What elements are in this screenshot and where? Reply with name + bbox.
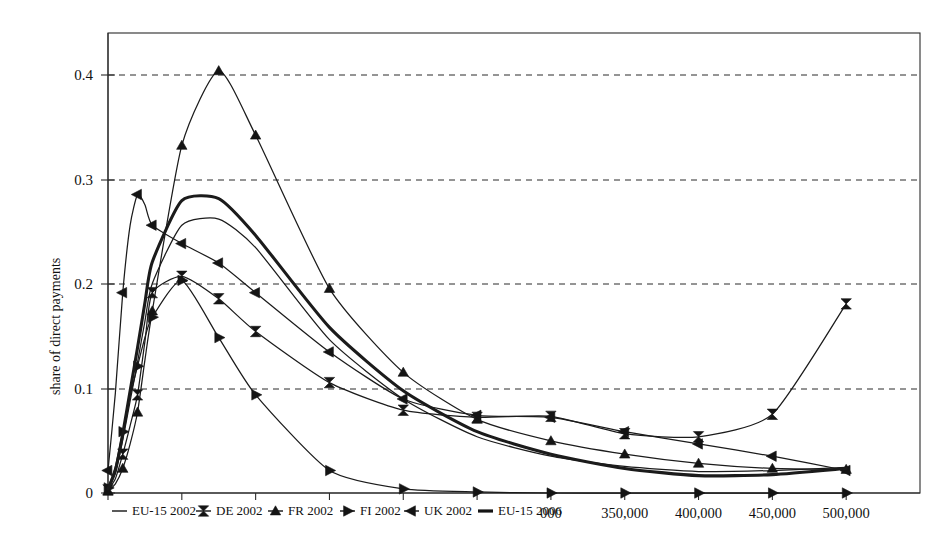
y-tick-label-0.3: 0.3 — [74, 172, 93, 188]
y-tick-label-0.4: 0.4 — [74, 67, 93, 83]
data-point-marker — [117, 287, 127, 297]
data-point-marker — [252, 390, 262, 400]
data-point-marker — [214, 294, 224, 304]
x-tick-label-9: 450,000 — [749, 505, 796, 521]
legend-marker-icon — [344, 506, 354, 516]
legend-label: FR 2002 — [288, 503, 333, 518]
data-point-marker — [398, 405, 408, 415]
data-point-marker — [250, 326, 260, 336]
data-point-marker — [766, 451, 776, 461]
data-point-marker — [326, 465, 336, 475]
chart-legend: EU-15 2002DE 2002FR 2002FI 2002UK 2002EU… — [112, 503, 562, 518]
legend-item-fr-2002[interactable]: FR 2002 — [268, 503, 333, 518]
series-fi-2002 — [104, 275, 852, 498]
data-point-marker — [176, 238, 186, 248]
x-tick-labels: 000350,000400,000450,000500,000 — [540, 505, 870, 521]
legend-label: EU-15 2006 — [498, 503, 562, 518]
data-point-marker — [547, 488, 557, 498]
data-point-marker — [215, 332, 225, 342]
y-tick-label-0.1: 0.1 — [74, 381, 93, 397]
series-eu-15-2006 — [108, 196, 846, 489]
series-line — [108, 280, 846, 493]
legend-label: UK 2002 — [424, 503, 472, 518]
x-tick-label-10: 500,000 — [823, 505, 870, 521]
data-point-marker — [213, 258, 223, 268]
data-point-marker — [695, 488, 705, 498]
series-line — [108, 194, 846, 470]
data-point-marker — [767, 409, 777, 419]
data-point-marker — [214, 66, 224, 75]
data-point-marker — [177, 140, 187, 149]
chart-figure: share of direct payments 0.4 0.3 0.2 0.1… — [0, 0, 943, 556]
legend-item-eu-15-2006[interactable]: EU-15 2006 — [478, 503, 562, 518]
data-point-marker — [841, 299, 851, 309]
series-line — [108, 196, 846, 489]
data-point-marker — [102, 465, 112, 475]
legend-label: EU-15 2002 — [132, 503, 196, 518]
series-line — [108, 276, 846, 490]
legend-item-uk-2002[interactable]: UK 2002 — [404, 503, 472, 518]
y-tick-label-0: 0 — [86, 485, 94, 501]
legend-marker-icon — [405, 506, 415, 516]
y-axis-title: share of direct payments — [48, 258, 63, 395]
x-tick-label-8: 400,000 — [675, 505, 722, 521]
x-tick-label-7: 350,000 — [601, 505, 648, 521]
data-point-marker — [250, 130, 260, 139]
data-point-marker — [146, 220, 156, 230]
plot-frame — [108, 33, 920, 493]
gridlines — [108, 75, 920, 389]
legend-item-fi-2002[interactable]: FI 2002 — [340, 503, 401, 518]
x-axis — [108, 493, 920, 500]
data-point-marker — [324, 377, 334, 387]
series-de-2002 — [103, 271, 852, 495]
data-point-marker — [768, 488, 778, 498]
series-line — [108, 218, 846, 489]
line-chart: share of direct payments 0.4 0.3 0.2 0.1… — [0, 0, 943, 556]
data-point-marker — [842, 488, 852, 498]
legend-item-de-2002[interactable]: DE 2002 — [196, 503, 263, 518]
legend-label: FI 2002 — [360, 503, 401, 518]
legend-label: DE 2002 — [216, 503, 263, 518]
y-tick-label-0.2: 0.2 — [74, 276, 93, 292]
legend-item-eu-15-2002[interactable]: EU-15 2002 — [112, 503, 196, 518]
series-eu-15-2002 — [108, 218, 846, 489]
y-axis: 0.4 0.3 0.2 0.1 0 — [74, 33, 115, 501]
data-point-marker — [324, 283, 334, 292]
series-layer — [102, 66, 853, 499]
data-point-marker — [473, 487, 483, 497]
series-line — [108, 71, 846, 491]
data-point-marker — [621, 488, 631, 498]
